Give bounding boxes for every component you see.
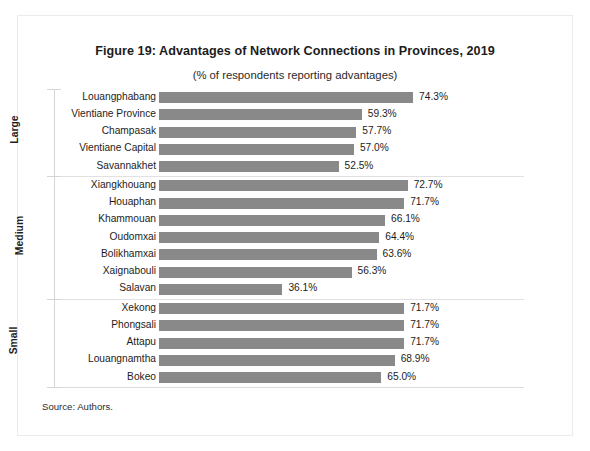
- bar: [159, 144, 354, 155]
- category-label: Houaphan: [109, 196, 156, 207]
- category-label: Xiangkhouang: [91, 179, 156, 190]
- source-note: Source: Authors.: [42, 401, 113, 412]
- bar-value-label: 52.5%: [345, 160, 374, 171]
- bar-row: Bolikhamxai63.6%: [0, 246, 590, 263]
- category-label: Khammouan: [98, 213, 156, 224]
- bar: [159, 180, 408, 191]
- category-label: Phongsali: [111, 319, 156, 330]
- bar-row: Champasak57.7%: [0, 124, 590, 141]
- bar: [159, 249, 377, 260]
- bar-row: Khammouan66.1%: [0, 212, 590, 229]
- bar-row: Attapu71.7%: [0, 335, 590, 352]
- category-label: Louangphabang: [82, 91, 156, 102]
- category-label: Salavan: [119, 282, 156, 293]
- bar-value-label: 65.0%: [387, 371, 416, 382]
- bar: [159, 232, 379, 243]
- bar-value-label: 74.3%: [419, 91, 448, 102]
- bar: [159, 338, 404, 349]
- bar-value-label: 66.1%: [391, 213, 420, 224]
- value-axis-baseline: [54, 387, 524, 388]
- category-label: Xaignabouli: [103, 265, 156, 276]
- group-axis-tick: [47, 299, 61, 300]
- bar: [159, 267, 352, 278]
- bar: [159, 215, 385, 226]
- bar-row: Houaphan71.7%: [0, 195, 590, 212]
- bar-chart-plot: Louangphabang74.3%Vientiane Province59.3…: [0, 0, 590, 451]
- bar-row: Louangphabang74.3%: [0, 89, 590, 106]
- bar: [159, 198, 404, 209]
- bar-value-label: 71.7%: [410, 196, 439, 207]
- bar: [159, 372, 381, 383]
- bar-row: Xekong71.7%: [0, 300, 590, 317]
- bar-value-label: 71.7%: [410, 336, 439, 347]
- bar-value-label: 68.9%: [401, 353, 430, 364]
- group-label-text: Small: [8, 327, 19, 355]
- category-label: Savannakhet: [97, 160, 156, 171]
- bar-value-label: 57.0%: [360, 142, 389, 153]
- category-label: Vientiane Province: [71, 108, 156, 119]
- group-label-text: Large: [9, 115, 20, 143]
- bar: [159, 303, 404, 314]
- bar: [159, 355, 395, 366]
- bar: [159, 92, 413, 103]
- group-label-medium: Medium: [0, 230, 26, 241]
- bar-value-label: 59.3%: [368, 108, 397, 119]
- bar-row: Xiangkhouang72.7%: [0, 177, 590, 194]
- category-label: Vientiane Capital: [79, 142, 156, 153]
- category-label: Attapu: [127, 336, 156, 347]
- bar: [159, 284, 282, 295]
- bar: [159, 161, 339, 172]
- bar-value-label: 36.1%: [288, 282, 317, 293]
- bar-row: Xaignabouli56.3%: [0, 264, 590, 281]
- group-axis-tick: [47, 176, 61, 177]
- category-label: Champasak: [102, 125, 156, 136]
- category-label: Louangnamtha: [88, 353, 156, 364]
- bar-value-label: 56.3%: [358, 265, 387, 276]
- category-label: Oudomxai: [110, 231, 156, 242]
- bar-value-label: 71.7%: [410, 302, 439, 313]
- group-axis-tick: [47, 89, 61, 90]
- figure-page: Figure 19: Advantages of Network Connect…: [0, 0, 590, 451]
- bar-value-label: 71.7%: [410, 319, 439, 330]
- bar-row: Oudomxai64.4%: [0, 229, 590, 246]
- bar-value-label: 57.7%: [362, 125, 391, 136]
- bar-row: Bokeo65.0%: [0, 369, 590, 386]
- group-axis-tick: [47, 387, 61, 388]
- bar-row: Salavan36.1%: [0, 281, 590, 298]
- bar-row: Louangnamtha68.9%: [0, 352, 590, 369]
- group-label-text: Medium: [14, 215, 25, 254]
- bar-row: Vientiane Capital57.0%: [0, 141, 590, 158]
- category-label: Bokeo: [127, 371, 156, 382]
- category-label: Xekong: [121, 302, 156, 313]
- bar: [159, 127, 356, 138]
- bar-value-label: 63.6%: [383, 248, 412, 259]
- bar: [159, 109, 362, 120]
- bar-value-label: 64.4%: [385, 231, 414, 242]
- bar-row: Vientiane Province59.3%: [0, 106, 590, 123]
- group-label-small: Small: [0, 335, 26, 346]
- bar-row: Phongsali71.7%: [0, 317, 590, 334]
- category-label: Bolikhamxai: [101, 248, 156, 259]
- bar-value-label: 72.7%: [414, 179, 443, 190]
- bar: [159, 320, 404, 331]
- group-label-large: Large: [0, 124, 26, 135]
- bar-row: Savannakhet52.5%: [0, 158, 590, 175]
